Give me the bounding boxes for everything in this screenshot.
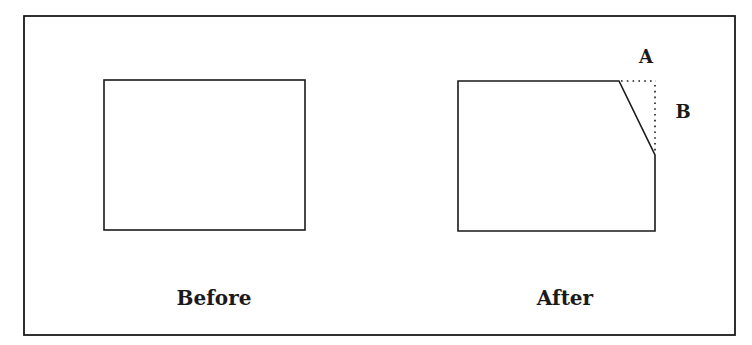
outer-frame (24, 16, 735, 335)
before-rectangle (104, 80, 305, 230)
dimension-label-b: B (675, 103, 690, 121)
before-caption: Before (177, 288, 252, 308)
after-chamfered-shape (458, 81, 655, 231)
dimension-label-a: A (639, 48, 653, 66)
after-caption: After (537, 288, 593, 308)
